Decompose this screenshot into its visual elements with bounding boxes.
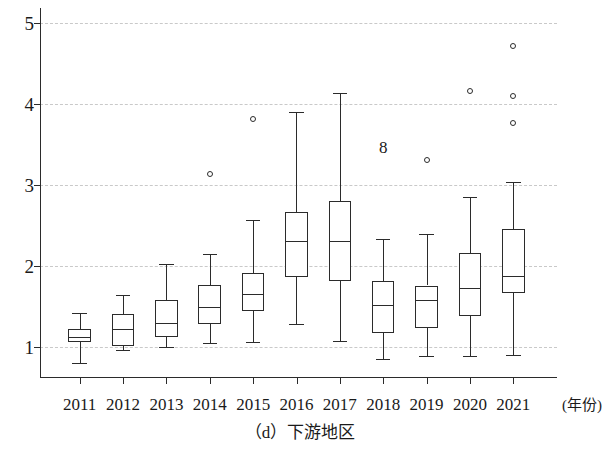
x-tick-mark [427,377,428,384]
median-line [155,323,178,324]
lower-whisker [427,328,428,356]
lower-whisker-cap [506,355,520,356]
box-plot-2011 [68,8,91,378]
x-tick-label: 2018 [366,396,400,413]
x-tick-mark [297,377,298,384]
median-line [285,241,308,242]
box-plot-2012 [112,8,135,378]
upper-whisker-cap [203,254,217,255]
data-annotation: 8 [379,138,388,155]
lower-whisker [383,333,384,358]
x-tick-mark [253,377,254,384]
box-plot-2014 [198,8,221,378]
upper-whisker [296,112,297,212]
y-tick-mark [34,104,41,105]
lower-whisker-cap [246,342,260,343]
x-tick-label: 2020 [453,396,487,413]
x-tick-mark [383,377,384,384]
lower-whisker [340,281,341,341]
x-axis-title: (年份) [562,398,602,413]
lower-whisker [253,311,254,343]
y-tick-label: 3 [10,175,34,194]
upper-whisker [166,264,167,300]
lower-whisker-cap [333,341,347,342]
lower-whisker-cap [116,350,130,351]
plot-area: 12345 2011201220132014201520162017201820… [40,8,560,383]
median-line [112,329,135,330]
lower-whisker-cap [376,359,390,360]
median-line [198,307,221,308]
upper-whisker-cap [289,112,303,113]
lower-whisker-cap [289,324,303,325]
x-tick-mark [166,377,167,384]
outlier-point [467,88,473,94]
iqr-box [68,329,91,342]
y-tick-mark [34,266,41,267]
upper-whisker [123,295,124,314]
iqr-box [155,300,178,337]
lower-whisker-cap [203,343,217,344]
lower-whisker [210,324,211,343]
x-tick-mark [513,377,514,384]
median-line [502,276,525,277]
iqr-box [502,229,525,293]
upper-whisker [253,220,254,273]
y-tick-mark [34,23,41,24]
y-axis-line [40,8,41,378]
x-tick-label: 2017 [323,396,357,413]
median-line [68,337,91,338]
x-tick-label: 2012 [106,396,140,413]
iqr-box [242,273,265,311]
iqr-box [372,281,395,333]
y-tick-mark [34,347,41,348]
upper-whisker [210,254,211,285]
y-tick-label: 2 [10,257,34,276]
upper-whisker [427,234,428,285]
y-tick-label: 5 [10,13,34,32]
x-tick-label: 2014 [193,396,227,413]
lower-whisker [296,277,297,325]
box-plot-2015 [242,8,265,378]
upper-whisker-cap [506,182,520,183]
outlier-point [250,116,256,122]
x-tick-label: 2016 [280,396,314,413]
box-plot-2017 [329,8,352,378]
box-plot-2016 [285,8,308,378]
iqr-box [285,212,308,277]
upper-whisker [340,93,341,201]
upper-whisker-cap [463,197,477,198]
lower-whisker [166,337,167,348]
lower-whisker [80,342,81,362]
iqr-box [415,286,438,328]
box-plot-2019 [415,8,438,378]
box-plot-2020 [459,8,482,378]
median-line [329,241,352,242]
outlier-point [510,43,516,49]
upper-whisker-cap [419,234,433,235]
outlier-point [207,171,213,177]
upper-whisker-cap [246,220,260,221]
upper-whisker [513,182,514,229]
y-tick-label: 1 [10,338,34,357]
x-tick-label: 2011 [63,396,96,413]
iqr-box [459,253,482,315]
lower-whisker-cap [72,363,86,364]
x-tick-label: 2021 [496,396,530,413]
median-line [372,305,395,306]
x-tick-mark [123,377,124,384]
lower-whisker [513,293,514,355]
y-tick-label: 4 [10,94,34,113]
outlier-point [510,93,516,99]
upper-whisker-cap [159,264,173,265]
upper-whisker [383,239,384,281]
x-tick-mark [80,377,81,384]
lower-whisker [470,316,471,357]
x-tick-label: 2013 [149,396,183,413]
box-plot-2021 [502,8,525,378]
median-line [459,288,482,289]
x-tick-mark [340,377,341,384]
outlier-point [510,120,516,126]
iqr-box [198,285,221,325]
box-plot-2018 [372,8,395,378]
